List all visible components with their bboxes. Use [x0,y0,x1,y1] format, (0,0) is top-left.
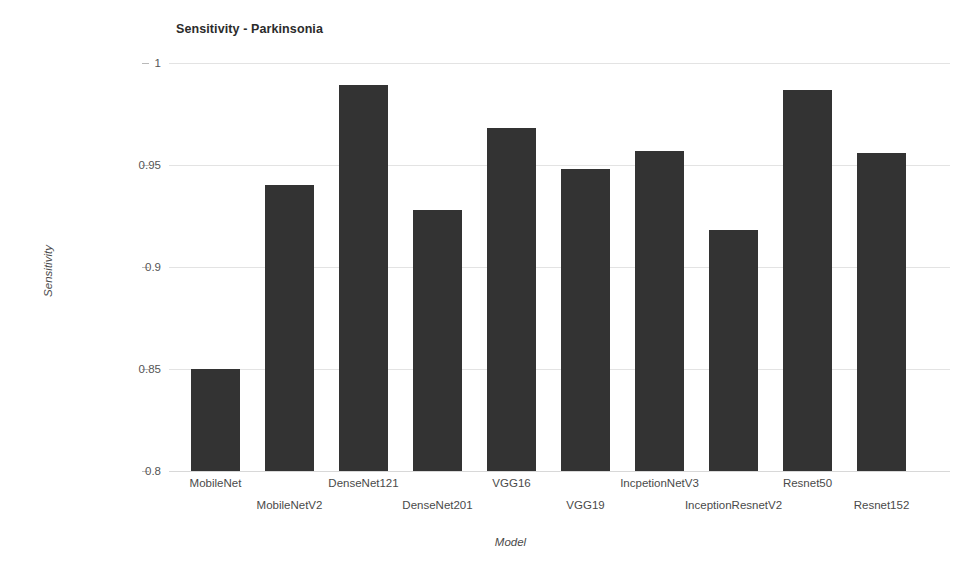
y-axis-tick-mark [142,63,149,64]
bar-series [191,63,950,471]
bar [783,90,832,471]
chart-title: Sensitivity - Parkinsonia [176,22,323,36]
y-axis-tick-label: 0.85 [139,363,161,375]
bar [635,151,684,471]
y-axis-title-text: Sensitivity [42,216,54,326]
x-axis-tick-label: Resnet50 [783,477,832,489]
x-axis-tick-label: DenseNet201 [402,499,472,511]
y-axis-tick-label: 0.9 [145,261,161,273]
bar [339,85,388,471]
bar [561,169,610,471]
x-axis-tick-label: VGG19 [566,499,604,511]
bar [191,369,240,471]
y-axis-title: Sensitivity [28,106,40,216]
bar [709,230,758,471]
x-axis-tick-label: DenseNet121 [328,477,398,489]
bar [413,210,462,471]
bar [857,153,906,471]
sensitivity-bar-chart: Sensitivity - Parkinsonia Sensitivity 0.… [0,0,961,566]
plot-area: 0.80.850.90.951 MobileNetMobileNetV2Dens… [191,63,950,471]
x-axis-tick-label: InceptionResnetV2 [685,499,782,511]
bar [487,128,536,471]
x-axis-tick-label: VGG16 [492,477,530,489]
y-axis-tick-label: 0.8 [145,465,161,477]
x-axis-tick-label: MobileNet [190,477,242,489]
x-axis-tick-label: Resnet152 [854,499,910,511]
bar [265,185,314,471]
x-axis-tick-labels: MobileNetMobileNetV2DenseNet121DenseNet2… [191,471,950,531]
y-axis-tick-label: 1 [155,57,161,69]
y-axis-tick-label: 0.95 [139,159,161,171]
x-axis-tick-label: MobileNetV2 [257,499,323,511]
x-axis-tick-label: IncpetionNetV3 [620,477,699,489]
x-axis-title: Model [0,536,961,548]
